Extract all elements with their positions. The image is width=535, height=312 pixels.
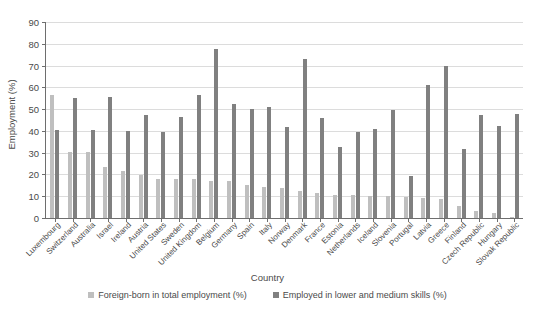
bar <box>214 49 218 218</box>
x-axis-label-cell: Israel <box>99 222 117 278</box>
bar-group <box>240 22 258 218</box>
bar <box>315 193 319 218</box>
bar-group <box>452 22 470 218</box>
bar <box>474 211 478 218</box>
bar <box>139 175 143 218</box>
y-axis-tick-mark <box>42 218 46 219</box>
x-axis-label-cell: Australia <box>81 222 99 278</box>
x-axis-title: Country <box>0 272 535 283</box>
bar-group <box>276 22 294 218</box>
x-axis-label-cell: Portugal <box>399 222 417 278</box>
x-axis-label-cell: Spain <box>240 222 258 278</box>
bar <box>298 191 302 218</box>
legend-label: Foreign-born in total employment (%) <box>98 290 247 300</box>
bar <box>245 185 249 218</box>
y-axis-tick-label: 60 <box>28 82 39 93</box>
bar <box>421 198 425 218</box>
legend-label: Employed in lower and medium skills (%) <box>283 290 447 300</box>
x-axis-label-cell: Iceland <box>364 222 382 278</box>
bar <box>55 130 59 218</box>
bar <box>373 129 377 218</box>
bar-group <box>187 22 205 218</box>
bar-group <box>505 22 523 218</box>
x-axis-label-cell: Belgium <box>205 222 223 278</box>
bar <box>426 85 430 218</box>
bar-group <box>46 22 64 218</box>
bar <box>91 130 95 218</box>
bar <box>197 95 201 218</box>
bar <box>510 217 514 218</box>
bar <box>439 199 443 218</box>
x-axis-label-cell: Germany <box>223 222 241 278</box>
bar <box>161 132 165 218</box>
bar-group <box>364 22 382 218</box>
bar-group <box>81 22 99 218</box>
bar <box>303 59 307 218</box>
bar <box>50 95 54 218</box>
bar <box>73 98 77 218</box>
bar <box>192 179 196 218</box>
bar-group <box>311 22 329 218</box>
legend-item[interactable]: Employed in lower and medium skills (%) <box>273 290 447 300</box>
legend-swatch-icon <box>273 292 279 298</box>
bar-group <box>99 22 117 218</box>
bar <box>497 126 501 218</box>
bar <box>285 127 289 218</box>
bar-group <box>223 22 241 218</box>
bar <box>492 213 496 218</box>
bar <box>444 66 448 218</box>
bar <box>515 114 519 218</box>
bar <box>280 188 284 218</box>
x-axis-label-cell: Italy <box>258 222 276 278</box>
x-axis-label-cell: United Kingdom <box>187 222 205 278</box>
bar-group <box>117 22 135 218</box>
bar <box>68 152 72 218</box>
x-axis-label-cell: Latvia <box>417 222 435 278</box>
bar <box>262 187 266 218</box>
bar-group <box>152 22 170 218</box>
bar-group <box>170 22 188 218</box>
bar <box>404 197 408 218</box>
bar-groups <box>46 22 523 218</box>
bar <box>209 181 213 218</box>
bar <box>356 132 360 218</box>
legend-swatch-icon <box>88 292 94 298</box>
bar <box>103 167 107 218</box>
bar <box>144 115 148 218</box>
y-axis-tick-label: 10 <box>28 191 39 202</box>
chart-legend: Foreign-born in total employment (%)Empl… <box>0 290 535 300</box>
bar <box>457 206 461 218</box>
bar <box>250 109 254 218</box>
bar-group <box>329 22 347 218</box>
y-axis-tick-label: 90 <box>28 17 39 28</box>
bar <box>320 118 324 218</box>
bar-group <box>470 22 488 218</box>
bar <box>391 110 395 218</box>
y-axis-tick-label: 30 <box>28 147 39 158</box>
bar-group <box>134 22 152 218</box>
bar <box>108 97 112 218</box>
x-axis-label-cell: Slovak Republic <box>505 222 523 278</box>
bar-group <box>293 22 311 218</box>
bar <box>368 196 372 218</box>
plot-area: 0102030405060708090 <box>46 22 523 218</box>
x-axis-labels: LuxembourgSwitzerlandAustraliaIsraelIrel… <box>46 222 523 278</box>
x-axis-label-cell: Switzerland <box>64 222 82 278</box>
bar-group <box>346 22 364 218</box>
bar-group <box>64 22 82 218</box>
bar <box>462 149 466 218</box>
bar <box>227 181 231 218</box>
bar-group <box>399 22 417 218</box>
bar-group <box>417 22 435 218</box>
y-axis-title-text: Employment (%) <box>6 79 17 149</box>
bar-group <box>435 22 453 218</box>
bar <box>121 171 125 218</box>
bar <box>479 115 483 218</box>
bar-group <box>382 22 400 218</box>
bar <box>267 107 271 219</box>
bar <box>174 179 178 218</box>
legend-item[interactable]: Foreign-born in total employment (%) <box>88 290 247 300</box>
y-axis-tick-label: 80 <box>28 38 39 49</box>
bar-group <box>205 22 223 218</box>
x-axis-label-cell: Netherlands <box>346 222 364 278</box>
